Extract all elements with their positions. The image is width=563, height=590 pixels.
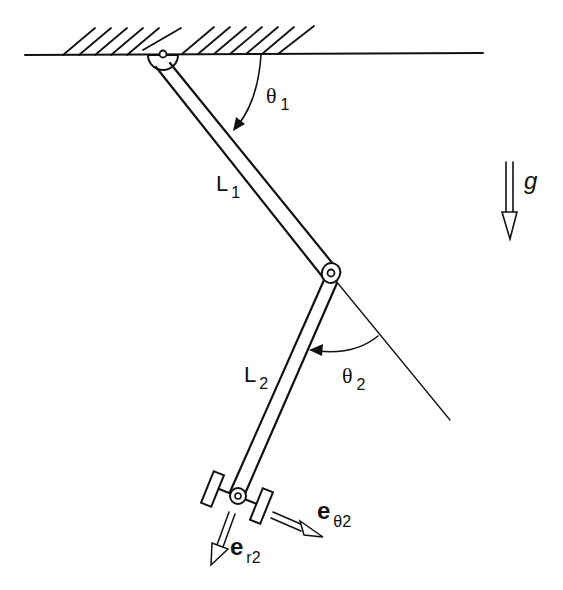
e-r2-label: er2 bbox=[230, 533, 261, 566]
top-pivot-pin bbox=[160, 51, 167, 58]
theta1-angle-arrow bbox=[233, 55, 261, 131]
gravity-label: g bbox=[524, 167, 538, 194]
double-pendulum-diagram: θ1 θ2 L1 L2 g er2 eθ2 bbox=[0, 0, 563, 590]
link-1 bbox=[156, 63, 338, 280]
link-1-label: L1 bbox=[216, 171, 240, 201]
link-2 bbox=[230, 280, 337, 496]
link-2-label: L2 bbox=[244, 362, 268, 392]
theta2-arrowhead bbox=[309, 344, 323, 356]
e-theta2-arrow-icon bbox=[271, 512, 323, 537]
end-mass-cart bbox=[201, 471, 273, 524]
middle-joint-pin bbox=[328, 270, 335, 277]
link-1-extension-line bbox=[336, 281, 450, 420]
e-theta2-label: eθ2 bbox=[317, 497, 351, 530]
ground-hatching bbox=[63, 26, 314, 55]
theta2-angle-arrow bbox=[309, 336, 378, 356]
end-joint-pin bbox=[235, 493, 241, 499]
theta1-label: θ1 bbox=[266, 83, 290, 113]
ground-support bbox=[25, 26, 483, 55]
right-wheel bbox=[250, 488, 273, 524]
theta2-label: θ2 bbox=[342, 363, 366, 393]
gravity-arrow-icon bbox=[502, 162, 517, 239]
